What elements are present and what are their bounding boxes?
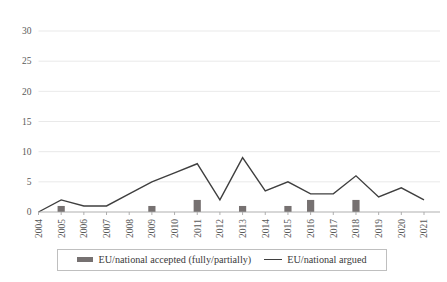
line-series-path <box>39 158 425 212</box>
x-tick-label-2013: 2013 <box>238 219 248 238</box>
x-tick-label-2004: 2004 <box>34 219 44 238</box>
bar-2011 <box>194 200 201 212</box>
x-tick-label-2009: 2009 <box>147 219 157 238</box>
bar-2018 <box>352 200 359 212</box>
x-tick-label-2019: 2019 <box>374 219 384 238</box>
plot-area: 051015202530 200420052006200720082009201… <box>0 0 447 282</box>
x-tick-label-2011: 2011 <box>193 219 203 238</box>
bar-2013 <box>239 206 246 212</box>
y-axis-tick-labels: 051015202530 <box>22 26 32 217</box>
x-tick-label-2008: 2008 <box>125 219 135 238</box>
x-tick-label-2015: 2015 <box>283 219 293 238</box>
y-tick-label: 15 <box>22 117 32 127</box>
x-tick-label-2021: 2021 <box>419 219 429 238</box>
x-axis-tick-labels: 2004200520062007200820092010201120122013… <box>34 219 430 238</box>
y-tick-label: 30 <box>22 26 32 36</box>
bar-2015 <box>284 206 291 212</box>
legend-label-accepted: EU/national accepted (fully/partially) <box>98 255 251 265</box>
legend-item-argued: EU/national argued <box>264 255 366 265</box>
chart-svg: 051015202530 200420052006200720082009201… <box>0 0 447 282</box>
x-tick-label-2012: 2012 <box>215 219 225 238</box>
legend-item-accepted: EU/national accepted (fully/partially) <box>77 255 251 265</box>
y-tick-label: 0 <box>27 207 32 217</box>
x-tick-label-2020: 2020 <box>397 219 407 238</box>
y-tick-label: 5 <box>27 177 32 187</box>
x-tick-label-2018: 2018 <box>351 219 361 238</box>
y-tick-label: 25 <box>22 56 32 66</box>
chart-legend: EU/national accepted (fully/partially) E… <box>57 249 387 271</box>
bar-2016 <box>307 200 314 212</box>
x-tick-label-2007: 2007 <box>102 219 112 238</box>
gridlines <box>39 31 441 182</box>
legend-bar-swatch-icon <box>77 257 93 262</box>
x-tick-label-2005: 2005 <box>57 219 67 238</box>
x-tick-label-2010: 2010 <box>170 219 180 238</box>
x-tick-label-2016: 2016 <box>306 219 316 238</box>
x-tick-label-2017: 2017 <box>329 219 339 238</box>
chart-container: 051015202530 200420052006200720082009201… <box>0 0 447 282</box>
y-tick-label: 20 <box>22 87 32 97</box>
x-tick-label-2014: 2014 <box>261 219 271 238</box>
bar-2009 <box>148 206 155 212</box>
y-tick-label: 10 <box>22 147 32 157</box>
x-tick-label-2006: 2006 <box>79 219 89 238</box>
line-series <box>39 158 425 212</box>
legend-line-swatch-icon <box>264 259 282 260</box>
legend-label-argued: EU/national argued <box>287 255 366 265</box>
bar-2005 <box>58 206 65 212</box>
